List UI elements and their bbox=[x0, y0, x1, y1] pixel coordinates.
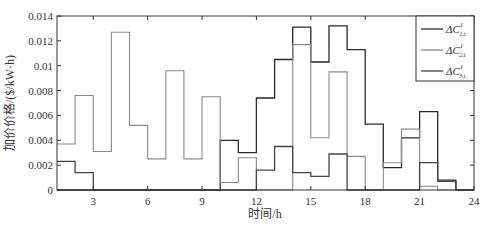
y-tick-label: 0.002 bbox=[28, 159, 53, 171]
y-axis-title: 加价价格/($/kW·h) bbox=[2, 55, 17, 151]
x-tick-label: 18 bbox=[360, 195, 372, 207]
y-tick-label: 0.008 bbox=[28, 85, 53, 97]
x-tick-label: 3 bbox=[91, 195, 97, 207]
series-line-2 bbox=[57, 32, 474, 190]
x-axis-title: 时间/h bbox=[248, 207, 281, 221]
series-line-3 bbox=[57, 147, 474, 191]
series-line-1 bbox=[57, 26, 474, 190]
legend: ΔC11,tΔC12,tΔC13,t bbox=[416, 16, 474, 81]
x-tick-label: 6 bbox=[145, 195, 151, 207]
y-tick-label: 0.004 bbox=[28, 134, 53, 146]
chart-canvas: 3691215182124 00.0020.0040.0060.0080.010… bbox=[0, 0, 491, 230]
x-tick-label: 9 bbox=[199, 195, 205, 207]
x-tick-label: 24 bbox=[469, 195, 481, 207]
chart: 3691215182124 00.0020.0040.0060.0080.010… bbox=[0, 0, 491, 230]
y-axis: 00.0020.0040.0060.0080.010.0120.014 bbox=[28, 10, 474, 196]
y-tick-label: 0.01 bbox=[34, 60, 53, 72]
plot-frame bbox=[57, 16, 474, 190]
y-tick-label: 0 bbox=[48, 184, 54, 196]
x-tick-label: 12 bbox=[251, 195, 262, 207]
y-tick-label: 0.006 bbox=[28, 109, 53, 121]
y-tick-label: 0.012 bbox=[28, 35, 53, 47]
plot-lines bbox=[57, 26, 474, 190]
y-tick-label: 0.014 bbox=[28, 10, 53, 22]
x-tick-label: 15 bbox=[305, 195, 317, 207]
x-tick-label: 21 bbox=[414, 195, 425, 207]
